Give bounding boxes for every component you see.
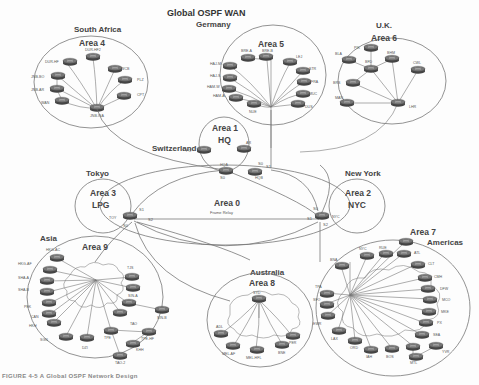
router-icon [250, 346, 264, 354]
node-label: CWL [413, 61, 421, 65]
area-3-sublabel: LPG [92, 200, 110, 210]
node-label: TJS [127, 266, 134, 270]
wan-links [95, 109, 330, 301]
router-icon [340, 99, 354, 107]
router-icon [297, 78, 311, 86]
node-label: BLA [335, 52, 342, 56]
node-label: ADL [216, 325, 223, 329]
router-icon [364, 65, 378, 73]
router-icon [63, 58, 77, 66]
router-icon [423, 296, 437, 304]
router-icon [259, 53, 273, 61]
interface-label: S1 [307, 216, 313, 221]
interface-label: S0 [220, 175, 226, 180]
router-icon [104, 327, 118, 335]
area-8-australia: Australia Area 8 SYD ADL MEL-AF MEL-HFL … [207, 268, 313, 367]
node-label: ORD [350, 346, 358, 350]
router-icon [320, 290, 334, 298]
router-icon [108, 65, 122, 73]
router-icon [248, 168, 262, 176]
router-icon [90, 104, 104, 112]
node-label: DUR-HF2 [85, 48, 101, 52]
node-label: BRS [333, 81, 341, 85]
router-icon [320, 301, 334, 309]
node-label: YVR [442, 350, 450, 354]
node-label: RUE [379, 246, 387, 250]
area-4-south-africa: South Africa Area 4 DUR-HF DUR-HF2 JNB-B… [31, 25, 148, 128]
router-icon [411, 261, 425, 269]
node-label: PEK [24, 305, 32, 309]
area-6-uk: U.K. Area 6 PIK BLA BFD BHM CWL BRS MAN … [300, 21, 446, 152]
router-icon [346, 79, 360, 87]
router-icon [415, 331, 429, 339]
node-label: SIN-A [128, 294, 138, 298]
node-label: BRE-B [262, 49, 274, 53]
node-label: BRE-A [241, 49, 253, 53]
node-label: NUE [249, 110, 257, 114]
area-1-switzerland: Switzerland Area 1 HQ PC AR HQA HQB S0 S… [152, 117, 272, 180]
region-label-new-york: New York [345, 169, 381, 178]
router-icon [118, 76, 132, 84]
area-2-label: Area 2 [345, 188, 371, 198]
router-icon [296, 90, 310, 98]
router-icon [409, 353, 423, 361]
node-label: DUR-HF [45, 60, 60, 64]
node-label: EWR [313, 322, 322, 326]
router-icon [429, 342, 443, 350]
node-label: SGN [40, 338, 48, 342]
router-icon [399, 238, 413, 246]
node-label: LAX [331, 337, 338, 341]
router-icon [275, 341, 289, 349]
node-label: LHR [409, 105, 417, 109]
node-label: SYD [253, 291, 261, 295]
node-label: HAM-A [213, 94, 225, 98]
router-icon [50, 85, 64, 93]
figure-caption: FIGURE 4-5 A Global OSPF Network Design [2, 373, 138, 379]
interface-label: S1 [139, 207, 145, 212]
router-icon [391, 99, 405, 107]
area-9-asia: Asia Area 9 HKG-AC HKG-AF SHA-A SHA-B [18, 234, 169, 365]
diagram-title: Global OSPF WAN [167, 8, 246, 18]
node-label: MAN [335, 96, 343, 100]
node-label: TPA [315, 285, 322, 289]
router-icon [47, 319, 61, 327]
node-label: MUC [309, 92, 318, 96]
node-label: MCO [442, 298, 451, 302]
node-label: PLZ [137, 78, 144, 82]
router-icon [379, 250, 393, 258]
area-0-frame-relay: Area 0 Frame Relay [100, 165, 350, 245]
router-icon [419, 319, 433, 327]
router-icon [397, 250, 411, 258]
node-label: HKG-AF [18, 262, 32, 266]
node-label: PIK [354, 46, 360, 50]
region-label-tokyo: Tokyo [86, 169, 109, 178]
router-icon [223, 74, 237, 82]
area-7-label: Area 7 [410, 227, 436, 237]
region-label-australia: Australia [250, 268, 285, 277]
router-icon [197, 146, 211, 154]
router-icon [348, 337, 362, 345]
node-label: DFW [440, 287, 449, 291]
router-icon [126, 340, 140, 348]
router-icon [422, 308, 436, 316]
router-icon [385, 55, 399, 63]
interface-label: S0 [313, 206, 319, 211]
router-icon [291, 100, 305, 108]
node-label: JNB-ISA [90, 114, 104, 118]
region-label-germany: Germany [196, 20, 231, 29]
node-label: BHM [387, 51, 395, 55]
node-label: PC [186, 149, 191, 153]
router-icon [126, 284, 140, 292]
router-icon [113, 309, 127, 317]
node-label: MEL-HFL [246, 356, 261, 360]
router-icon [226, 342, 240, 350]
node-label: HKH [29, 324, 37, 328]
router-icon [364, 44, 378, 52]
node-label: NYC [332, 215, 340, 219]
node-label: CMH [434, 275, 443, 279]
node-label: FRA [311, 80, 319, 84]
router-icon [406, 343, 420, 351]
node-label: TPE-HF [141, 337, 155, 341]
node-label: LEJ [296, 55, 302, 59]
router-icon [59, 333, 73, 341]
